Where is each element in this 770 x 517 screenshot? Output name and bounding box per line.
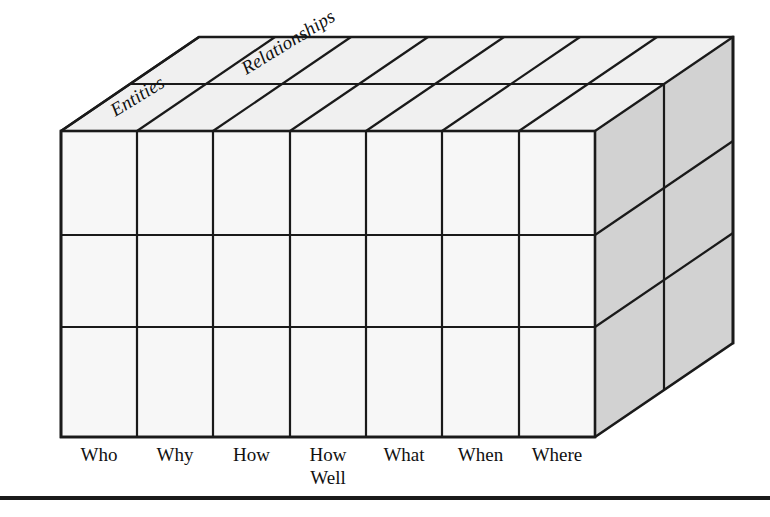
col-label-who-line1: Who [61, 443, 137, 466]
col-label-how: How [213, 443, 290, 466]
cube-diagram: .edge { stroke: #1a1a1a; stroke-width: 2… [0, 0, 770, 517]
col-label-when-line1: When [442, 443, 519, 466]
col-label-how-well-line2: Well [290, 466, 366, 489]
col-label-where: Where [519, 443, 595, 466]
axis-label-system: System [0, 324, 75, 342]
col-label-where-line1: Where [519, 443, 595, 466]
design-space-cube-figure: .edge { stroke: #1a1a1a; stroke-width: 2… [0, 0, 770, 517]
col-label-why-line1: Why [137, 443, 213, 466]
col-label-what: What [366, 443, 442, 466]
col-label-what-line1: What [366, 443, 442, 466]
axis-label-context: Context [0, 234, 75, 252]
col-label-who: Who [61, 443, 137, 466]
col-label-why: Why [137, 443, 213, 466]
axis-label-designer: Designer [0, 414, 73, 432]
col-label-when: When [442, 443, 519, 466]
bottom-divider-rule [0, 496, 770, 500]
col-label-how-well: How Well [290, 443, 366, 489]
front-face-fill [61, 131, 595, 437]
col-label-how-line1: How [213, 443, 290, 466]
col-label-how-well-line1: How [290, 443, 366, 466]
